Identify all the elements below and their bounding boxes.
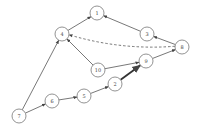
edge-10-to-9: [105, 62, 139, 68]
node-10: 10: [91, 63, 105, 77]
graph-canvas: 14381092567: [0, 0, 201, 129]
node-5: 5: [77, 89, 91, 103]
edge-8-to-4: [69, 35, 175, 47]
edge-8-to-3: [154, 36, 176, 44]
node-1: 1: [90, 6, 104, 20]
node-label: 5: [82, 93, 85, 99]
node-2: 2: [108, 77, 122, 91]
edge-3-to-1: [103, 16, 140, 32]
node-4: 4: [55, 27, 69, 41]
edge-4-to-1: [68, 17, 91, 31]
node-3: 3: [140, 27, 154, 41]
node-label: 6: [50, 98, 53, 104]
edge-7-to-6: [25, 104, 45, 113]
node-8: 8: [175, 40, 189, 54]
node-label: 9: [144, 58, 147, 64]
edge-6-to-5: [59, 97, 77, 100]
node-7: 7: [12, 109, 26, 123]
edge-5-to-2: [91, 87, 109, 94]
node-9: 9: [139, 54, 153, 68]
edge-2-to-9: [121, 65, 141, 80]
node-label: 2: [113, 81, 116, 87]
node-label: 1: [95, 10, 98, 16]
node-6: 6: [45, 94, 59, 108]
node-label: 7: [17, 113, 20, 119]
node-label: 3: [145, 31, 148, 37]
edge-10-to-4: [67, 39, 93, 65]
node-label: 10: [95, 67, 101, 73]
node-layer: 14381092567: [12, 6, 189, 123]
edge-9-to-8: [153, 50, 176, 59]
node-label: 8: [180, 44, 183, 50]
node-label: 4: [60, 31, 63, 37]
